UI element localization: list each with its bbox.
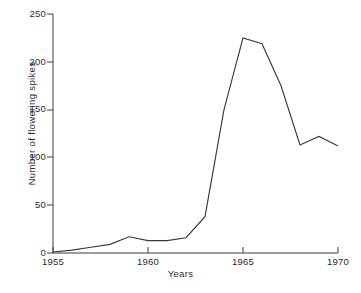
data-series-line [53,38,338,252]
y-axis [47,14,53,253]
plot-area [0,0,361,293]
line-chart: Number of flowering spikes Years 250 200… [0,0,361,293]
x-axis [53,247,338,253]
